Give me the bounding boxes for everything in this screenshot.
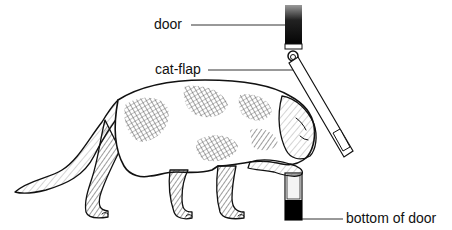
- label-door: door: [154, 17, 182, 31]
- door-upper: [285, 5, 302, 49]
- door-lower: [285, 173, 302, 220]
- label-cat-flap: cat-flap: [155, 62, 201, 76]
- cat-flap-diagram: door cat-flap bottom of door: [0, 0, 452, 230]
- diagram-illustration: [0, 0, 452, 230]
- cat-illustration: [15, 80, 316, 219]
- label-bottom-of-door: bottom of door: [346, 211, 436, 225]
